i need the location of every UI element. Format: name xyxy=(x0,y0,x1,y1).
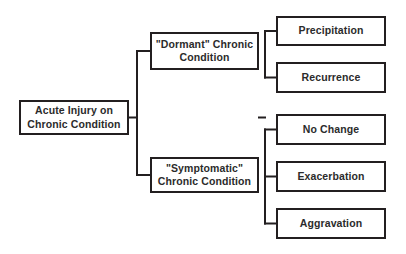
node-aggravation[interactable]: Aggravation xyxy=(276,208,386,239)
node-label-no-change: No Change xyxy=(303,123,359,136)
node-root[interactable]: Acute Injury on Chronic Condition xyxy=(19,100,129,135)
node-label-symptomatic: "Symptomatic" Chronic Condition xyxy=(158,162,251,189)
node-label-exacerbation: Exacerbation xyxy=(297,170,364,183)
node-dormant[interactable]: "Dormant" Chronic Condition xyxy=(150,32,259,70)
node-label-root: Acute Injury on Chronic Condition xyxy=(27,104,120,131)
node-label-precipitation: Precipitation xyxy=(299,24,364,37)
node-exacerbation[interactable]: Exacerbation xyxy=(276,161,386,192)
flowchart-canvas: Acute Injury on Chronic Condition"Dorman… xyxy=(0,0,406,254)
node-label-aggravation: Aggravation xyxy=(300,217,362,230)
node-precipitation[interactable]: Precipitation xyxy=(276,16,386,46)
node-label-recurrence: Recurrence xyxy=(302,71,361,84)
node-recurrence[interactable]: Recurrence xyxy=(276,62,386,93)
node-label-dormant: "Dormant" Chronic Condition xyxy=(156,38,253,65)
node-no-change[interactable]: No Change xyxy=(276,114,386,145)
node-symptomatic[interactable]: "Symptomatic" Chronic Condition xyxy=(150,157,259,193)
